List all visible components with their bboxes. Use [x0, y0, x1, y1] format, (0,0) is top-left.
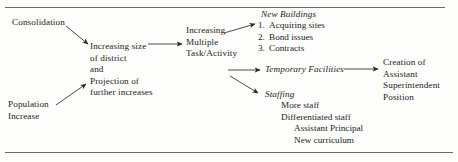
node-increasing-size-line-1: Increasing size [90, 41, 153, 53]
list-item: More staff [272, 100, 363, 112]
list-item: Differentiated staff [272, 112, 363, 124]
arrow-population-to-size [56, 84, 86, 105]
node-creation-assistant-superintendent-position: Creation of Assistant Superintendent Pos… [383, 57, 440, 103]
node-multiple-task-line-1: Increasing [186, 25, 237, 37]
node-consolidation-line-1: Consolidation [12, 17, 65, 29]
node-consolidation: Consolidation [12, 17, 65, 29]
list-item: 1.Acquiring sites [258, 20, 325, 32]
node-creation-line-2: Assistant [383, 69, 440, 81]
node-creation-line-3: Superintendent [383, 80, 440, 92]
node-staffing-heading: Staffing [265, 89, 294, 101]
list-item-label: Acquiring sites [269, 20, 325, 30]
list-item-number: 2. [258, 32, 269, 44]
node-increasing-multiple-task: Increasing Multiple Task/Activity [186, 25, 237, 60]
node-increasing-size-line-3: and [90, 64, 153, 76]
node-new-buildings-heading: New Buildings [261, 9, 316, 21]
node-population-increase: Population Increase [8, 99, 49, 122]
list-item-label: Bond issues [269, 32, 313, 42]
list-item-number: 3. [258, 43, 269, 55]
node-population-increase-line-2: Increase [8, 111, 49, 123]
diagram-canvas: Consolidation Population Increase Increa… [0, 0, 458, 162]
bottom-rule-divider [5, 152, 453, 153]
list-item: 2.Bond issues [258, 32, 325, 44]
list-item-label: Contracts [269, 43, 304, 53]
new-buildings-list: 1.Acquiring sites 2.Bond issues 3.Contra… [258, 20, 325, 55]
node-increasing-size-line-5: further increases [90, 87, 153, 99]
new-buildings-heading-text: New Buildings [261, 9, 316, 21]
staffing-list: More staff Differentiated staff Assistan… [272, 100, 363, 146]
list-item: Assistant Principal [272, 123, 363, 135]
node-increasing-size: Increasing size of district and Projecti… [90, 41, 153, 99]
list-item: 3.Contracts [258, 43, 325, 55]
node-creation-line-4: Position [383, 92, 440, 104]
node-multiple-task-line-2: Multiple [186, 37, 237, 49]
node-increasing-size-line-2: of district [90, 53, 153, 65]
node-creation-line-1: Creation of [383, 57, 440, 69]
list-item-number: 1. [258, 20, 269, 32]
top-rule-divider [5, 7, 445, 8]
staffing-heading-text: Staffing [265, 89, 294, 101]
temporary-facilities-text: Temporary Facilities [265, 64, 344, 76]
node-temporary-facilities: Temporary Facilities [265, 64, 344, 76]
arrow-consolidation-to-size [66, 26, 88, 44]
list-item: New curriculum [272, 135, 363, 147]
node-multiple-task-line-3: Task/Activity [186, 48, 237, 60]
node-increasing-size-line-4: Projection of [90, 76, 153, 88]
node-population-increase-line-1: Population [8, 99, 49, 111]
arrow-multipletask-to-staffing [230, 76, 258, 93]
